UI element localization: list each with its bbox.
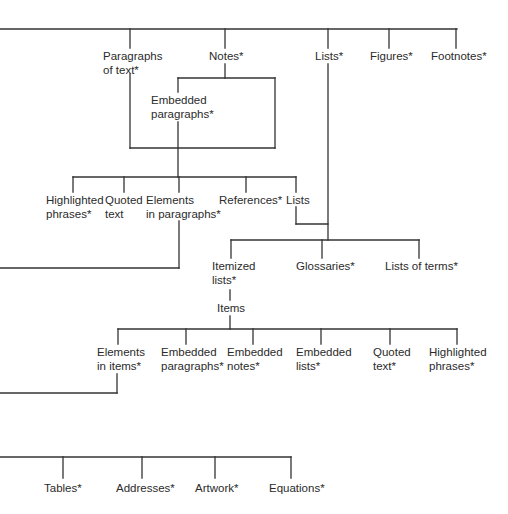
node-embedded-notes: Embedded notes* [227, 345, 283, 373]
node-elements-in-paragraphs: Elements in paragraphs* [146, 193, 221, 221]
node-quoted-text-items: Quoted text* [373, 345, 411, 373]
node-embedded-paragraphs-notes: Embedded paragraphs* [151, 93, 214, 121]
node-items: Items [217, 301, 245, 315]
node-equations: Equations* [269, 481, 325, 495]
node-quoted-text: Quoted text [105, 193, 143, 221]
node-embedded-lists: Embedded lists* [296, 345, 352, 373]
node-glossaries: Glossaries* [296, 259, 355, 273]
node-highlighted-phrases-items: Highlighted phrases* [429, 345, 487, 373]
node-itemized-lists: Itemized lists* [212, 259, 255, 287]
node-elements-in-items: Elements in items* [97, 345, 145, 373]
node-lists-top: Lists* [315, 49, 343, 63]
node-figures: Figures* [370, 49, 413, 63]
document-structure-tree: Paragraphs of text* Notes* Lists* Figure… [0, 0, 508, 514]
node-highlighted-phrases: Highlighted phrases* [46, 193, 104, 221]
node-lists-of-terms: Lists of terms* [385, 259, 458, 273]
node-paragraphs-of-text: Paragraphs of text* [103, 49, 162, 77]
node-lists-in-paragraphs: Lists [286, 193, 310, 207]
node-artwork: Artwork* [195, 481, 238, 495]
node-addresses: Addresses* [116, 481, 175, 495]
node-tables: Tables* [44, 481, 82, 495]
node-embedded-paragraphs-items: Embedded paragraphs* [161, 345, 224, 373]
node-notes: Notes* [209, 49, 244, 63]
node-footnotes: Footnotes* [431, 49, 487, 63]
connector-lines [0, 0, 508, 514]
node-references: References* [219, 193, 282, 207]
